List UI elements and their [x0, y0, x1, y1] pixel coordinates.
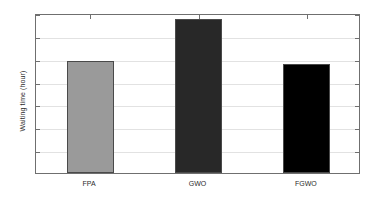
y-axis-tick-mark: [355, 61, 359, 62]
x-axis-tick-label-fgwo: FGWO: [271, 179, 341, 188]
y-axis-tick-mark: [36, 152, 40, 153]
bar-chart-figure: Waiting time (hour) 00.511.522.533.5 FPA…: [0, 0, 378, 199]
y-axis-tick-mark: [36, 84, 40, 85]
plot-area: [35, 14, 360, 174]
y-axis-tick-mark: [355, 84, 359, 85]
x-axis-tick-label-gwo: GWO: [163, 179, 233, 188]
y-axis-tick-mark: [355, 129, 359, 130]
bar-fpa: [67, 61, 114, 173]
x-axis-tick-label-fpa: FPA: [54, 179, 124, 188]
y-axis-tick-mark: [36, 129, 40, 130]
x-axis-tick-mark: [307, 15, 308, 19]
bar-fgwo: [283, 64, 330, 173]
y-axis-title: Waiting time (hour): [16, 21, 30, 181]
y-axis-tick-mark: [36, 38, 40, 39]
y-axis-tick-mark: [355, 15, 359, 16]
x-axis-tick-mark: [90, 15, 91, 19]
y-axis-tick-mark: [355, 38, 359, 39]
bar-gwo: [175, 19, 222, 173]
y-axis-tick-mark: [355, 106, 359, 107]
y-axis-tick-mark: [36, 61, 40, 62]
y-axis-tick-mark: [36, 106, 40, 107]
y-axis-tick-mark: [355, 152, 359, 153]
y-axis-tick-mark: [36, 15, 40, 16]
